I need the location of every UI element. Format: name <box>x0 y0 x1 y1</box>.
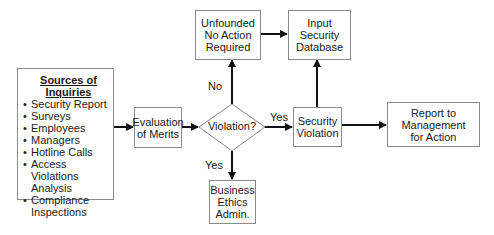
source-item: Surveys <box>22 110 113 122</box>
box-text: Violation <box>297 127 339 139</box>
box-text: Input <box>307 17 331 29</box>
box-text: Required <box>206 41 251 53</box>
report-to-management-box: Report to Management for Action <box>387 102 480 147</box>
sources-title: Sources of Inquiries <box>24 74 113 98</box>
sources-list: Security Report Surveys Employees Manage… <box>22 98 113 218</box>
box-text: Business <box>210 184 255 196</box>
edge-label-yes-right: Yes <box>270 111 288 123</box>
input-security-database-box: Input Security Database <box>288 10 351 60</box>
edge-label-yes-down: Yes <box>205 159 223 171</box>
source-item: Managers <box>22 134 113 146</box>
box-text: Security <box>300 29 340 41</box>
unfounded-box: Unfounded No Action Required <box>195 10 261 60</box>
decision-label: Violation? <box>199 120 265 132</box>
evaluation-of-merits-box: Evaluation of Merits <box>134 107 182 148</box>
box-text: Database <box>296 41 343 53</box>
box-text: Ethics <box>218 196 248 208</box>
business-ethics-admin-box: Business Ethics Admin. <box>209 180 256 224</box>
box-text: No Action <box>204 29 251 41</box>
box-text: Evaluation <box>132 116 183 128</box>
source-item: Employees <box>22 122 113 134</box>
box-text: Management <box>401 119 465 131</box>
box-text: for Action <box>411 131 457 143</box>
edge-label-no: No <box>208 80 222 92</box>
box-text: of Merits <box>137 128 179 140</box>
box-text: Security <box>298 115 338 127</box>
box-text: Report to <box>411 107 456 119</box>
source-item: Access Violations Analysis <box>22 158 113 194</box>
source-item: Security Report <box>22 98 113 110</box>
box-text: Unfounded <box>201 17 255 29</box>
source-item: Compliance Inspections <box>22 194 113 218</box>
security-violation-box: Security Violation <box>293 107 342 147</box>
source-item: Hotline Calls <box>22 146 113 158</box>
box-text: Admin. <box>215 208 249 220</box>
sources-of-inquiries-box: Sources of Inquiries Security Report Sur… <box>17 68 114 200</box>
